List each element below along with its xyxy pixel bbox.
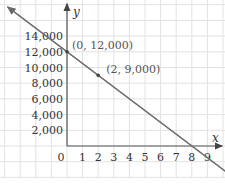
- line-chart: 0123456789 2,0004,0006,0008,00010,00012,…: [0, 0, 225, 187]
- y-tick-label: 4,000: [32, 109, 64, 122]
- y-tick-label: 12,000: [25, 46, 64, 59]
- x-tick-label: 8: [188, 151, 195, 164]
- x-tick-label: 3: [110, 151, 117, 164]
- data-point: [96, 74, 100, 78]
- data-point: [65, 50, 69, 54]
- point-label: (2, 9,000): [106, 63, 160, 76]
- y-axis-label: y: [72, 5, 80, 19]
- y-tick-label: 8,000: [32, 77, 64, 90]
- y-tick-label: 14,000: [25, 30, 64, 43]
- x-tick-label: 7: [173, 151, 180, 164]
- y-tick-label: 10,000: [25, 62, 64, 75]
- point-label: (0, 12,000): [72, 39, 133, 52]
- x-tick-label: 0: [58, 151, 65, 164]
- x-tick-label: 2: [95, 151, 102, 164]
- x-axis-label: x: [212, 131, 219, 145]
- x-tick-label: 5: [142, 151, 149, 164]
- y-tick-label: 6,000: [32, 93, 64, 106]
- x-tick-label: 1: [79, 151, 86, 164]
- y-tick-label: 2,000: [32, 124, 64, 137]
- point-annotations: (0, 12,000)(2, 9,000): [65, 39, 160, 77]
- x-tick-label: 6: [157, 151, 164, 164]
- x-tick-label: 4: [126, 151, 133, 164]
